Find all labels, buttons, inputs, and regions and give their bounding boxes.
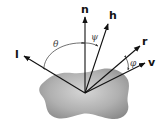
label-phi: φ xyxy=(130,58,137,68)
arc-psi xyxy=(86,43,98,46)
label-theta: θ xyxy=(53,39,59,49)
label-r: r xyxy=(142,35,148,48)
label-l: l xyxy=(15,48,19,61)
label-psi: ψ xyxy=(91,32,99,42)
label-n: n xyxy=(81,3,89,16)
reflection-diagram: n h l r v θ ψ φ xyxy=(0,0,168,130)
label-v: v xyxy=(148,56,156,69)
surface-patch xyxy=(39,69,129,120)
arc-theta xyxy=(44,43,84,67)
arc-phi xyxy=(126,58,128,70)
label-h: h xyxy=(109,9,117,22)
